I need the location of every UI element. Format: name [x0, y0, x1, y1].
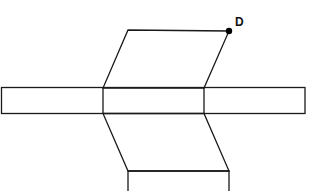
parallelepiped-net-diagram: D	[0, 0, 312, 191]
horizontal-face-strip	[2, 88, 306, 114]
point-d-label: D	[235, 15, 244, 29]
lower-parallelogram-face	[103, 114, 229, 172]
bottom-rectangle-face	[128, 171, 229, 191]
point-d-marker	[226, 28, 232, 34]
top-parallelogram-face	[103, 30, 229, 88]
